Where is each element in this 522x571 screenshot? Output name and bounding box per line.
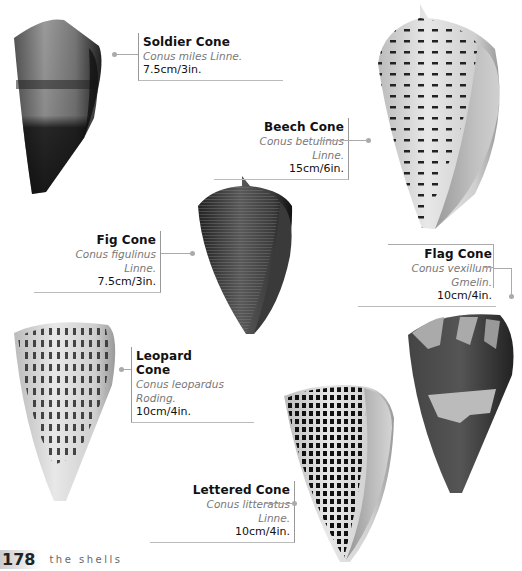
running-head: the shells [49, 554, 122, 565]
callout-leader [116, 54, 138, 55]
callout-dot [366, 138, 371, 143]
shell-size: 10cm/4in. [180, 525, 290, 539]
flag-cone-image [400, 305, 518, 495]
shell-scientific-name: Conus litteratus Linne. [180, 497, 290, 525]
callout-leader [123, 369, 131, 370]
shell-name: Lettered Cone [180, 483, 290, 497]
callout-leader [483, 267, 493, 268]
callout-leader [494, 268, 511, 269]
callout-leader [265, 503, 293, 504]
label-fig-cone: Fig Cone Conus figulinus Linne. 7.5cm/3i… [34, 231, 161, 293]
leopard-cone-image [8, 315, 120, 505]
page-footer: 178 the shells [0, 548, 122, 570]
label-leopard-cone: Leopard Cone Conus leopardus Roding. 10c… [131, 347, 254, 423]
callout-leader [319, 140, 367, 141]
callout-leader [511, 268, 512, 294]
shell-scientific-name: Conus betulinus Linne. [244, 134, 344, 162]
shell-name: Beech Cone [244, 120, 344, 134]
shell-name: Leopard Cone [136, 349, 224, 377]
beech-cone-image [360, 4, 520, 232]
label-beech-cone: Beech Cone Conus betulinus Linne. 15cm/6… [214, 118, 349, 180]
callout-dot [509, 294, 514, 299]
shell-scientific-name: Conus leopardus Roding. [136, 377, 224, 405]
shell-name: Soldier Cone [143, 35, 253, 49]
shell-scientific-name: Conus miles Linne. [143, 49, 253, 63]
shell-size: 15cm/6in. [244, 162, 344, 176]
shell-size: 10cm/4in. [136, 405, 224, 419]
shell-name: Flag Cone [388, 247, 492, 261]
shell-size: 10cm/4in. [388, 289, 492, 303]
fig-cone-image [192, 176, 302, 336]
label-lettered-cone: Lettered Cone Conus litteratus Linne. 10… [150, 481, 295, 543]
shell-size: 7.5cm/3in. [64, 275, 156, 289]
callout-dot [190, 251, 195, 256]
lettered-cone-image [280, 378, 400, 564]
soldier-cone-image [4, 8, 114, 198]
shell-scientific-name: Conus vexillum Gmelin. [388, 261, 492, 289]
page-number: 178 [0, 550, 41, 569]
callout-dot [292, 501, 297, 506]
shell-name: Fig Cone [64, 233, 156, 247]
callout-leader [161, 253, 191, 254]
shell-scientific-name: Conus figulinus Linne. [64, 247, 156, 275]
label-soldier-cone: Soldier Cone Conus miles Linne. 7.5cm/3i… [138, 33, 283, 81]
callout-leader [493, 244, 494, 288]
label-flag-cone: Flag Cone Conus vexillum Gmelin. 10cm/4i… [358, 245, 496, 307]
shell-size: 7.5cm/3in. [143, 63, 253, 77]
